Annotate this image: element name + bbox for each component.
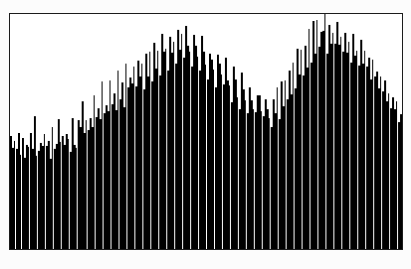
screenshot-root	[0, 0, 411, 269]
histogram-chart	[10, 14, 402, 249]
plot-frame	[9, 13, 403, 250]
